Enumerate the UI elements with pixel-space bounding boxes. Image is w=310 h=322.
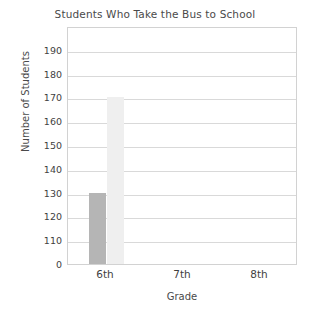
- bar: [107, 97, 124, 264]
- y-axis-tick-label: 130: [26, 189, 62, 199]
- x-axis-title: Grade: [67, 291, 297, 302]
- y-axis-tick-label: 110: [26, 236, 62, 246]
- x-axis-tick-label: 8th: [229, 268, 289, 280]
- y-axis-tick-label: 180: [26, 70, 62, 80]
- chart-title: Students Who Take the Bus to School: [0, 8, 310, 20]
- x-axis-tick-label: 7th: [152, 268, 212, 280]
- gridline: [68, 171, 296, 172]
- y-axis-tick-label: 0: [26, 260, 62, 270]
- gridline: [68, 76, 296, 77]
- y-axis-title: Number of Students: [20, 22, 31, 182]
- gridline: [68, 147, 296, 148]
- x-axis-tick-label: 6th: [75, 268, 135, 280]
- y-axis-tick-label: 140: [26, 165, 62, 175]
- gridline: [68, 123, 296, 124]
- x-axis-tick-labels: 6th7th8th: [67, 268, 297, 284]
- y-axis-tick-label: 170: [26, 93, 62, 103]
- plot-area: [67, 27, 297, 265]
- gridline: [68, 52, 296, 53]
- y-axis-tick-label: 120: [26, 212, 62, 222]
- y-axis-tick-label: 160: [26, 117, 62, 127]
- y-axis-tick-label: 150: [26, 141, 62, 151]
- y-axis-tick-label: 190: [26, 46, 62, 56]
- bar: [89, 193, 106, 264]
- gridline: [68, 99, 296, 100]
- bar-chart: Students Who Take the Bus to School 1901…: [0, 0, 310, 322]
